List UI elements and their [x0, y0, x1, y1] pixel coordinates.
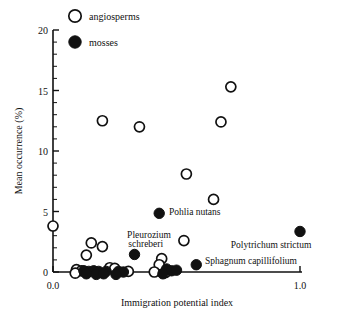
- y-tick-label-10: 10: [38, 146, 48, 157]
- data-point-angiosperm-5: [181, 169, 191, 179]
- annotation-label-3: Polytrichum strictum: [231, 240, 312, 250]
- data-point-moss-18: [111, 269, 121, 279]
- data-point-moss-3: [191, 260, 201, 270]
- scatter-plot-figure: angiosperms mosses: [0, 0, 354, 322]
- data-point-moss-17: [98, 269, 108, 279]
- legend-label-mosses: mosses: [89, 37, 118, 48]
- annotation-label-0: Pohlia nutans: [169, 207, 221, 217]
- legend: angiosperms mosses: [69, 10, 140, 48]
- data-point-angiosperm-9: [97, 242, 107, 252]
- data-point-moss-2: [129, 249, 139, 259]
- data-point-angiosperm-6: [209, 194, 219, 204]
- y-tick-label-5: 5: [43, 207, 48, 218]
- y-tick-label-0: 0: [43, 267, 48, 278]
- data-point-moss-14: [158, 269, 168, 279]
- x-axis-tick-labels: 0.0 1.0: [47, 280, 307, 291]
- data-point-angiosperm-0: [48, 221, 58, 231]
- data-point-angiosperm-1: [97, 116, 107, 126]
- data-point-moss-13: [171, 265, 181, 275]
- legend-marker-mosses: [69, 36, 81, 48]
- data-point-moss-0: [154, 208, 164, 218]
- data-point-moss-15: [81, 269, 91, 279]
- y-axis-tick-labels: 20 15 10 5 0: [38, 25, 48, 278]
- legend-marker-angiosperms: [69, 10, 81, 22]
- chart-canvas: angiosperms mosses: [0, 0, 354, 322]
- y-axis-title: Mean occurrence (%): [13, 108, 25, 195]
- annotation-label-4: Sphagnum capillifolium: [205, 256, 298, 266]
- annotation-label-2: schreberi: [128, 239, 163, 249]
- data-point-angiosperm-4: [216, 117, 226, 127]
- y-tick-label-20: 20: [38, 25, 48, 36]
- data-point-angiosperm-7: [179, 236, 189, 246]
- legend-label-angiosperms: angiosperms: [89, 11, 140, 22]
- data-point-moss-1: [295, 226, 305, 236]
- data-point-angiosperm-10: [81, 250, 91, 260]
- y-tick-label-15: 15: [38, 86, 48, 97]
- data-point-angiosperm-3: [226, 82, 236, 92]
- data-point-angiosperm-2: [134, 122, 144, 132]
- x-tick-label-0: 0.0: [47, 280, 60, 291]
- x-tick-label-1: 1.0: [294, 280, 307, 291]
- x-axis-title: Immigration potential index: [121, 297, 233, 308]
- data-point-angiosperm-8: [86, 238, 96, 248]
